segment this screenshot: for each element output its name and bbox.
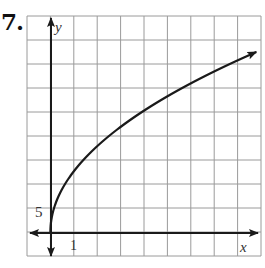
- y-axis-label: y: [53, 19, 62, 35]
- x-axis-label: x: [239, 239, 247, 255]
- data-curve: [50, 52, 256, 232]
- x-tick-label-1: 1: [70, 238, 77, 253]
- grid-lines: [27, 16, 261, 256]
- graph: y x 5 1: [0, 0, 265, 268]
- y-tick-label-5: 5: [35, 204, 43, 220]
